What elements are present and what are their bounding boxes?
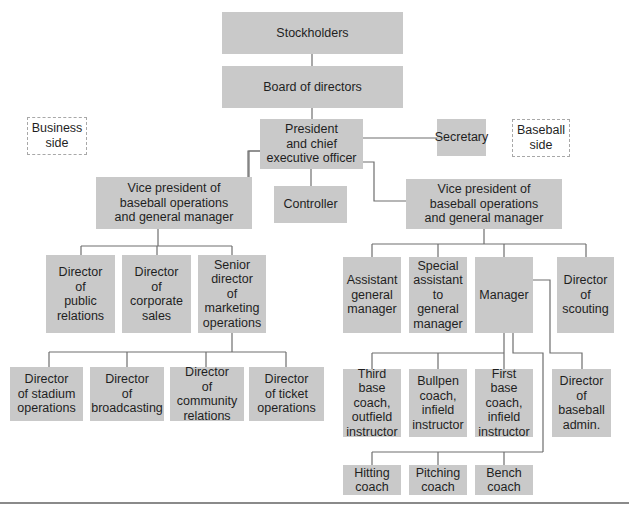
baseball-side-label: Baseball side <box>512 119 570 157</box>
node-label: Senior director of marketing operations <box>201 258 263 331</box>
node-director-scouting: Director of scouting <box>557 257 614 333</box>
node-vp-left: Vice president of baseball operations an… <box>96 177 252 229</box>
node-label: Director of public relations <box>57 265 104 323</box>
node-label: Secretary <box>435 130 489 145</box>
node-secretary: Secretary <box>437 119 486 156</box>
node-label: Director of stadium operations <box>17 372 75 416</box>
node-stockholders: Stockholders <box>222 12 403 54</box>
node-hitting-coach: Hitting coach <box>343 465 401 495</box>
node-label: Hitting coach <box>354 466 389 495</box>
node-controller: Controller <box>274 186 347 223</box>
node-label: Board of directors <box>263 80 362 95</box>
node-label: Director of community relations <box>173 365 241 423</box>
node-third-base-coach: Third base coach, outfield instructor <box>343 369 401 437</box>
node-label: President and chief executive officer <box>266 122 356 166</box>
node-label: Director of scouting <box>562 273 609 317</box>
node-director-corporate-sales: Director of corporate sales <box>122 255 191 333</box>
node-director-ticket-operations: Director of ticket operations <box>249 367 324 421</box>
node-first-base-coach: First base coach, infield instructor <box>475 369 533 437</box>
node-senior-director-marketing: Senior director of marketing operations <box>198 255 266 333</box>
node-label: Bench coach <box>486 466 521 495</box>
business-side-text: Business side <box>32 121 83 151</box>
node-label: Director of broadcasting <box>91 372 163 416</box>
node-bench-coach: Bench coach <box>475 465 533 495</box>
node-label: Manager <box>479 288 528 303</box>
node-label: Vice president of baseball operations an… <box>115 181 234 225</box>
node-director-public-relations: Director of public relations <box>46 255 115 333</box>
node-label: Pitching coach <box>416 466 460 495</box>
node-president-ceo: President and chief executive officer <box>260 119 363 169</box>
node-label: Special assistant to general manager <box>412 259 464 332</box>
node-label: Director of corporate sales <box>130 265 183 323</box>
node-pitching-coach: Pitching coach <box>409 465 467 495</box>
node-board-of-directors: Board of directors <box>222 66 403 108</box>
node-bullpen-coach: Bullpen coach, infield instructor <box>409 369 467 437</box>
node-label: Third base coach, outfield instructor <box>346 367 398 440</box>
node-label: Bullpen coach, infield instructor <box>412 374 463 432</box>
baseball-side-text: Baseball side <box>517 123 565 153</box>
node-label: Stockholders <box>276 26 348 41</box>
node-special-assistant-gm: Special assistant to general manager <box>409 257 467 333</box>
node-assistant-gm: Assistant general manager <box>343 257 401 333</box>
node-label: Controller <box>283 197 337 212</box>
node-director-broadcasting: Director of broadcasting <box>90 367 164 421</box>
node-director-stadium-operations: Director of stadium operations <box>10 367 83 421</box>
node-label: Director of baseball admin. <box>558 374 605 432</box>
node-director-community-relations: Director of community relations <box>170 367 244 421</box>
node-label: First base coach, infield instructor <box>478 367 530 440</box>
node-label: Assistant general manager <box>347 273 398 317</box>
node-label: Director of ticket operations <box>257 372 315 416</box>
node-manager: Manager <box>475 257 533 333</box>
node-vp-right: Vice president of baseball operations an… <box>406 179 562 229</box>
caption-divider <box>0 502 629 504</box>
node-label: Vice president of baseball operations an… <box>425 182 544 226</box>
business-side-label: Business side <box>27 117 87 155</box>
node-director-baseball-admin: Director of baseball admin. <box>552 369 611 437</box>
